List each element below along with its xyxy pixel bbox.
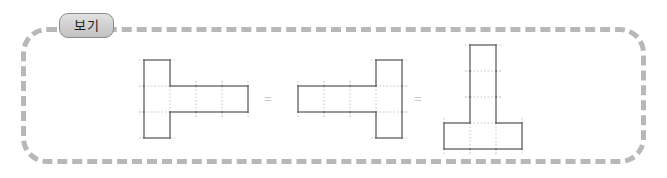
hexomino-net-right-svg	[443, 44, 523, 150]
net-cell	[144, 112, 170, 138]
hexomino-net-left	[143, 59, 249, 139]
net-cell	[376, 86, 402, 112]
example-label-text: 보기	[74, 19, 99, 32]
hexomino-net-middle-svg	[297, 59, 403, 139]
net-cell	[222, 86, 248, 112]
example-label-tag: 보기	[59, 13, 114, 38]
equals-sign-2: =	[414, 92, 422, 105]
net-cell	[144, 86, 170, 112]
net-cell	[144, 60, 170, 86]
equals-sign-1: =	[264, 92, 272, 105]
net-cell	[196, 86, 222, 112]
net-cell	[470, 123, 496, 149]
hexomino-net-left-svg	[143, 59, 249, 139]
hexomino-net-middle	[297, 59, 403, 139]
net-cell	[470, 97, 496, 123]
net-cell	[470, 71, 496, 97]
net-cell	[298, 86, 324, 112]
net-cell	[350, 86, 376, 112]
net-cell	[496, 123, 522, 149]
net-cell	[376, 60, 402, 86]
hexomino-net-right	[443, 44, 523, 150]
worksheet-figure-panel: 보기 = =	[0, 0, 667, 178]
net-cell	[324, 86, 350, 112]
net-cell	[444, 123, 470, 149]
net-cell	[170, 86, 196, 112]
net-cell	[376, 112, 402, 138]
net-cell	[470, 45, 496, 71]
